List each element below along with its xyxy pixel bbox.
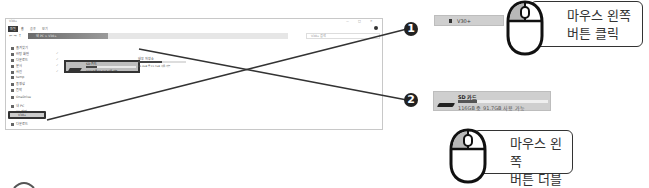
- step-1-callout-text: 마우스 왼쪽 버튼 클릭: [567, 7, 631, 43]
- connector-line-step-2: [139, 49, 407, 100]
- step-2-callout: 마우스 왼쪽 버튼 더블클릭: [473, 130, 573, 174]
- sd-card-icon: [437, 103, 455, 107]
- mouse-left-click-icon: [505, 0, 545, 56]
- step-2-drive-name: SD 카드: [458, 93, 478, 100]
- step-2-sd-card-item[interactable]: SD 카드 116GB 중 91.7GB 사용 가능: [433, 91, 551, 111]
- decorative-arc: [12, 178, 36, 188]
- step-2-badge: 2: [404, 93, 418, 107]
- step-1-badge: 1: [404, 22, 418, 36]
- drive-usage-bar: [458, 100, 548, 103]
- step-1-v30-item[interactable]: V30+: [434, 15, 504, 26]
- step-1-callout: 마우스 왼쪽 버튼 클릭: [530, 1, 643, 47]
- phone-icon: [449, 19, 452, 23]
- connector-line-step-1: [47, 29, 407, 120]
- step-1-label: V30+: [457, 16, 471, 26]
- step-2-callout-text: 마우스 왼쪽 버튼 더블클릭: [510, 135, 572, 188]
- drive-usage-fill: [458, 100, 477, 103]
- step-2-drive-info: 116GB 중 91.7GB 사용 가능: [458, 104, 525, 111]
- mouse-double-click-icon: [448, 128, 488, 184]
